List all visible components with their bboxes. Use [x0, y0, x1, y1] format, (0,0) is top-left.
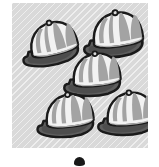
illustration-root	[0, 0, 159, 167]
bullet-dot-icon	[74, 157, 85, 166]
caps-graphic	[12, 3, 148, 148]
illustration-panel	[12, 3, 148, 148]
cap-top-right	[79, 7, 145, 61]
cap-top-left	[15, 15, 81, 72]
